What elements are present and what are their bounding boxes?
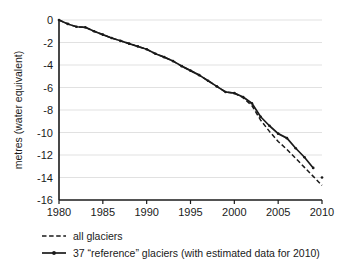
legend-item[interactable]: 37 “reference” glaciers (with estimated … bbox=[42, 247, 320, 259]
x-axis-tick-label: 2000 bbox=[222, 206, 246, 218]
data-point-marker bbox=[154, 52, 157, 55]
y-axis-tick-label: -8 bbox=[43, 104, 53, 116]
legend-item-label: all glaciers bbox=[73, 230, 123, 242]
data-point-marker bbox=[233, 92, 236, 95]
y-axis-tick-label: -14 bbox=[37, 172, 53, 184]
data-point-marker bbox=[207, 79, 210, 82]
data-point-marker bbox=[303, 156, 306, 159]
x-axis-tick-label: 1990 bbox=[134, 206, 158, 218]
data-point-marker bbox=[268, 124, 271, 127]
x-axis-tick-label: 2005 bbox=[266, 206, 290, 218]
data-point-marker bbox=[242, 96, 245, 99]
y-axis-tick-label: -2 bbox=[43, 37, 53, 49]
data-point-marker bbox=[119, 39, 122, 42]
x-axis-tick-label: 1980 bbox=[47, 206, 71, 218]
glacier-mass-balance-chart: 1980198519901995200020052010 0-2-4-6-8-1… bbox=[0, 0, 343, 270]
x-axis-tick-label: 1995 bbox=[178, 206, 202, 218]
chart-legend: all glaciers37 “reference” glaciers (wit… bbox=[42, 230, 320, 259]
data-point-marker bbox=[93, 30, 96, 33]
data-point-marker bbox=[145, 48, 148, 51]
data-point-marker bbox=[66, 23, 69, 26]
data-point-marker bbox=[251, 102, 254, 105]
y-axis-tick-labels: 0-2-4-6-8-10-12-14-16 bbox=[37, 14, 53, 206]
data-point-marker bbox=[84, 26, 87, 29]
y-axis-tick-label: -10 bbox=[37, 127, 53, 139]
data-point-marker bbox=[321, 176, 324, 179]
y-axis-tick-label: -4 bbox=[43, 59, 53, 71]
legend-item[interactable]: all glaciers bbox=[42, 230, 123, 242]
data-point-marker bbox=[163, 56, 166, 59]
data-point-marker bbox=[259, 115, 262, 118]
data-point-marker bbox=[294, 147, 297, 150]
data-point-marker bbox=[224, 91, 227, 94]
data-point-marker bbox=[137, 45, 140, 48]
data-point-marker bbox=[198, 74, 201, 77]
data-point-marker bbox=[180, 65, 183, 68]
gridlines bbox=[59, 20, 322, 178]
chart-canvas: 1980198519901995200020052010 0-2-4-6-8-1… bbox=[0, 0, 343, 270]
legend-swatch-marker-icon bbox=[52, 251, 56, 255]
data-point-marker bbox=[101, 33, 104, 36]
data-point-marker bbox=[189, 69, 192, 72]
data-point-marker bbox=[75, 25, 78, 28]
data-point-marker bbox=[312, 167, 315, 170]
data-point-marker bbox=[172, 60, 175, 63]
y-axis-tick-label: -16 bbox=[37, 194, 53, 206]
series-line-all-glaciers bbox=[59, 20, 322, 185]
data-point-marker bbox=[128, 42, 131, 45]
data-point-marker bbox=[286, 137, 289, 140]
x-axis-tick-label: 1985 bbox=[91, 206, 115, 218]
data-point-marker bbox=[110, 37, 113, 40]
data-point-marker bbox=[215, 85, 218, 88]
x-axis-tick-label: 2010 bbox=[310, 206, 334, 218]
y-axis-title: metres (water equivalent) bbox=[12, 51, 24, 169]
x-axis-tick-labels: 1980198519901995200020052010 bbox=[47, 206, 334, 218]
data-point-marker bbox=[277, 132, 280, 135]
y-axis-tick-label: -6 bbox=[43, 82, 53, 94]
y-axis-tick-label: 0 bbox=[47, 14, 53, 26]
y-axis-tick-label: -12 bbox=[37, 149, 53, 161]
data-point-marker bbox=[58, 19, 61, 22]
legend-item-label: 37 “reference” glaciers (with estimated … bbox=[73, 247, 320, 259]
data-series-group bbox=[58, 19, 324, 186]
